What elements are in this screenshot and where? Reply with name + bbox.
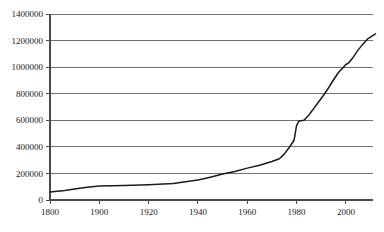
chart-background: [0, 0, 384, 232]
chart-canvas: 0200000400000600000800000100000012000001…: [0, 0, 384, 232]
y-tick-label: 600000: [16, 115, 44, 125]
y-tick-label: 1200000: [12, 36, 44, 46]
line-chart: 0200000400000600000800000100000012000001…: [0, 0, 384, 232]
x-tick-label: 1980: [288, 207, 307, 217]
x-tick-label: 2000: [337, 207, 356, 217]
y-tick-label: 400000: [16, 142, 44, 152]
x-tick-label: 1900: [90, 207, 109, 217]
y-tick-label: 1000000: [12, 62, 44, 72]
y-tick-label: 1400000: [12, 9, 44, 19]
y-tick-label: 800000: [16, 89, 44, 99]
x-tick-label: 1940: [189, 207, 208, 217]
y-tick-label: 200000: [16, 169, 44, 179]
x-tick-label: 1920: [140, 207, 159, 217]
y-tick-label: 0: [39, 195, 44, 205]
x-tick-label: 1800: [41, 207, 60, 217]
x-tick-label: 1960: [238, 207, 257, 217]
